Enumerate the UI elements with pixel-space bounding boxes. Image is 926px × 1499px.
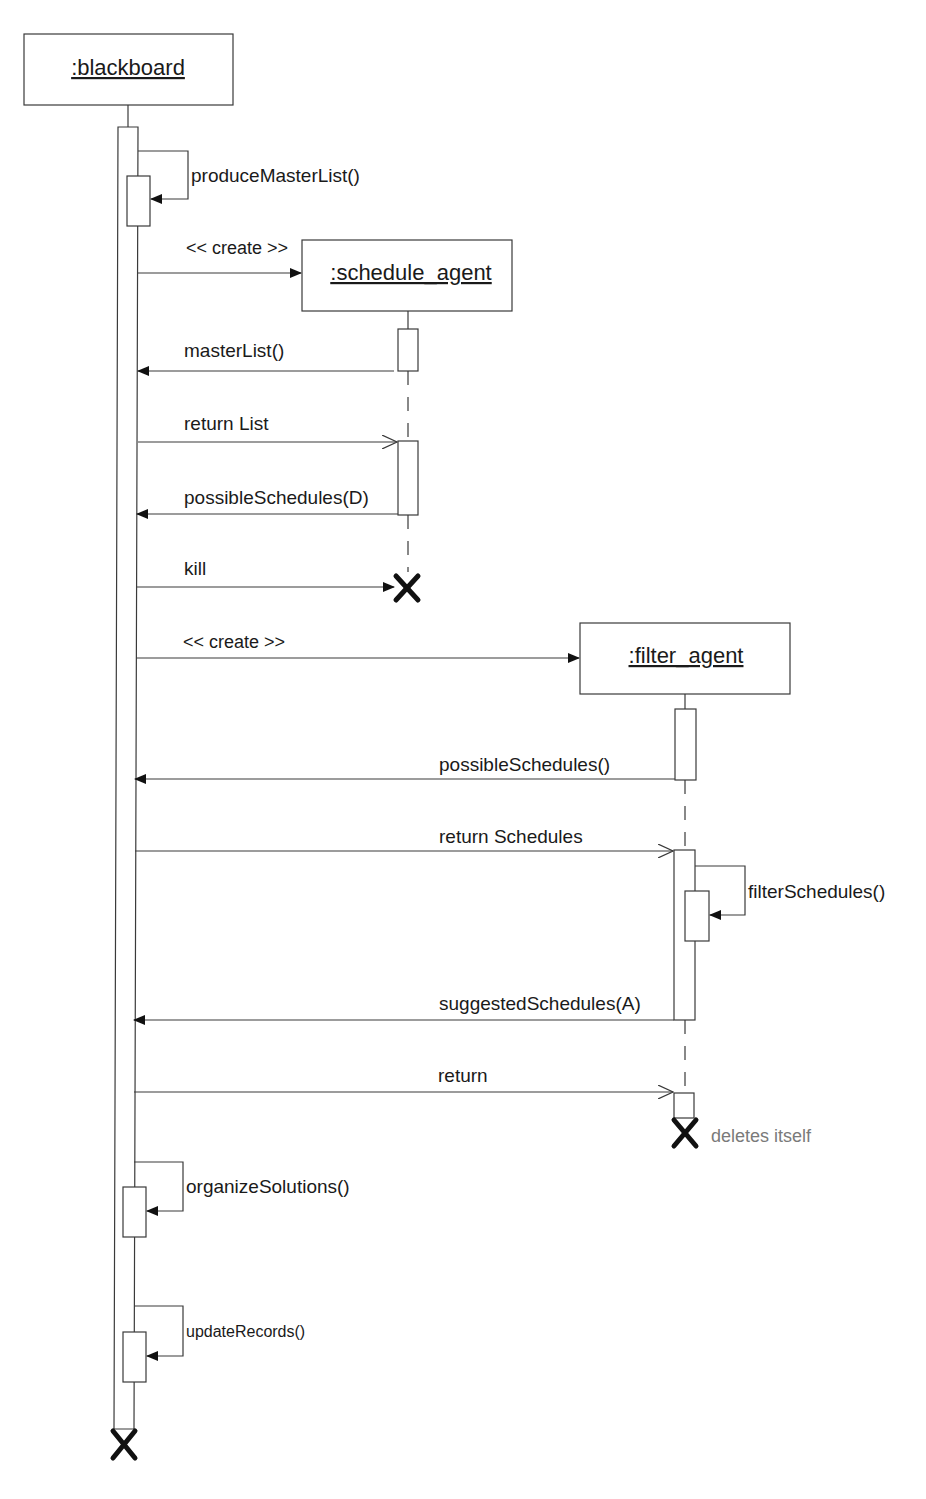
message-master-list: masterList(): [138, 340, 394, 371]
message-label: possibleSchedules(D): [184, 487, 369, 508]
message-label: return List: [184, 413, 269, 434]
activation-self-update-records: [123, 1332, 146, 1382]
message-create-schedule-agent: << create >>: [138, 238, 301, 273]
message-label: updateRecords(): [186, 1323, 305, 1340]
sequence-diagram: :blackboard produceMasterList() << creat…: [0, 0, 926, 1499]
message-label: suggestedSchedules(A): [439, 993, 641, 1014]
destroy-x-icon: [674, 1120, 696, 1146]
message-return-schedules: return Schedules: [135, 826, 673, 851]
object-schedule-agent: :schedule_agent: [302, 240, 512, 600]
object-label-blackboard: :blackboard: [71, 55, 185, 80]
message-label: return: [438, 1065, 488, 1086]
message-create-filter-agent: << create >>: [136, 632, 579, 658]
destroy-x-icon: [396, 576, 418, 600]
message-label: produceMasterList(): [191, 165, 360, 186]
activation-filter-agent-3: [674, 1093, 694, 1118]
message-update-records: updateRecords(): [123, 1306, 305, 1382]
message-return-list: return List: [138, 413, 397, 442]
message-possible-schedules: possibleSchedules(): [135, 754, 675, 779]
message-kill: kill: [137, 558, 394, 587]
message-suggested-schedules-a: suggestedSchedules(A): [134, 993, 674, 1020]
object-label-schedule-agent: :schedule_agent: [330, 260, 491, 285]
activation-filter-agent-1: [675, 709, 696, 780]
message-label: << create >>: [183, 632, 285, 652]
message-label: << create >>: [186, 238, 288, 258]
message-possible-schedules-d: possibleSchedules(D): [137, 487, 398, 514]
activation-self-filter-schedules: [685, 891, 709, 941]
message-label-filter-schedules: filterSchedules(): [748, 881, 885, 902]
message-label: kill: [184, 558, 206, 579]
object-label-filter-agent: :filter_agent: [629, 643, 744, 668]
activation-self-produce-master-list: [127, 176, 150, 226]
message-produce-master-list: produceMasterList(): [127, 151, 360, 226]
note-deletes-itself: deletes itself: [711, 1126, 812, 1146]
destroy-x-icon: [113, 1431, 135, 1458]
message-label: return Schedules: [439, 826, 583, 847]
message-label: possibleSchedules(): [439, 754, 610, 775]
activation-schedule-agent-1: [398, 329, 418, 371]
activation-schedule-agent-2: [398, 441, 418, 515]
message-organize-solutions: organizeSolutions(): [123, 1162, 350, 1237]
message-label: masterList(): [184, 340, 284, 361]
activation-self-organize-solutions: [123, 1187, 146, 1237]
message-label: organizeSolutions(): [186, 1176, 350, 1197]
message-return: return: [134, 1065, 673, 1092]
